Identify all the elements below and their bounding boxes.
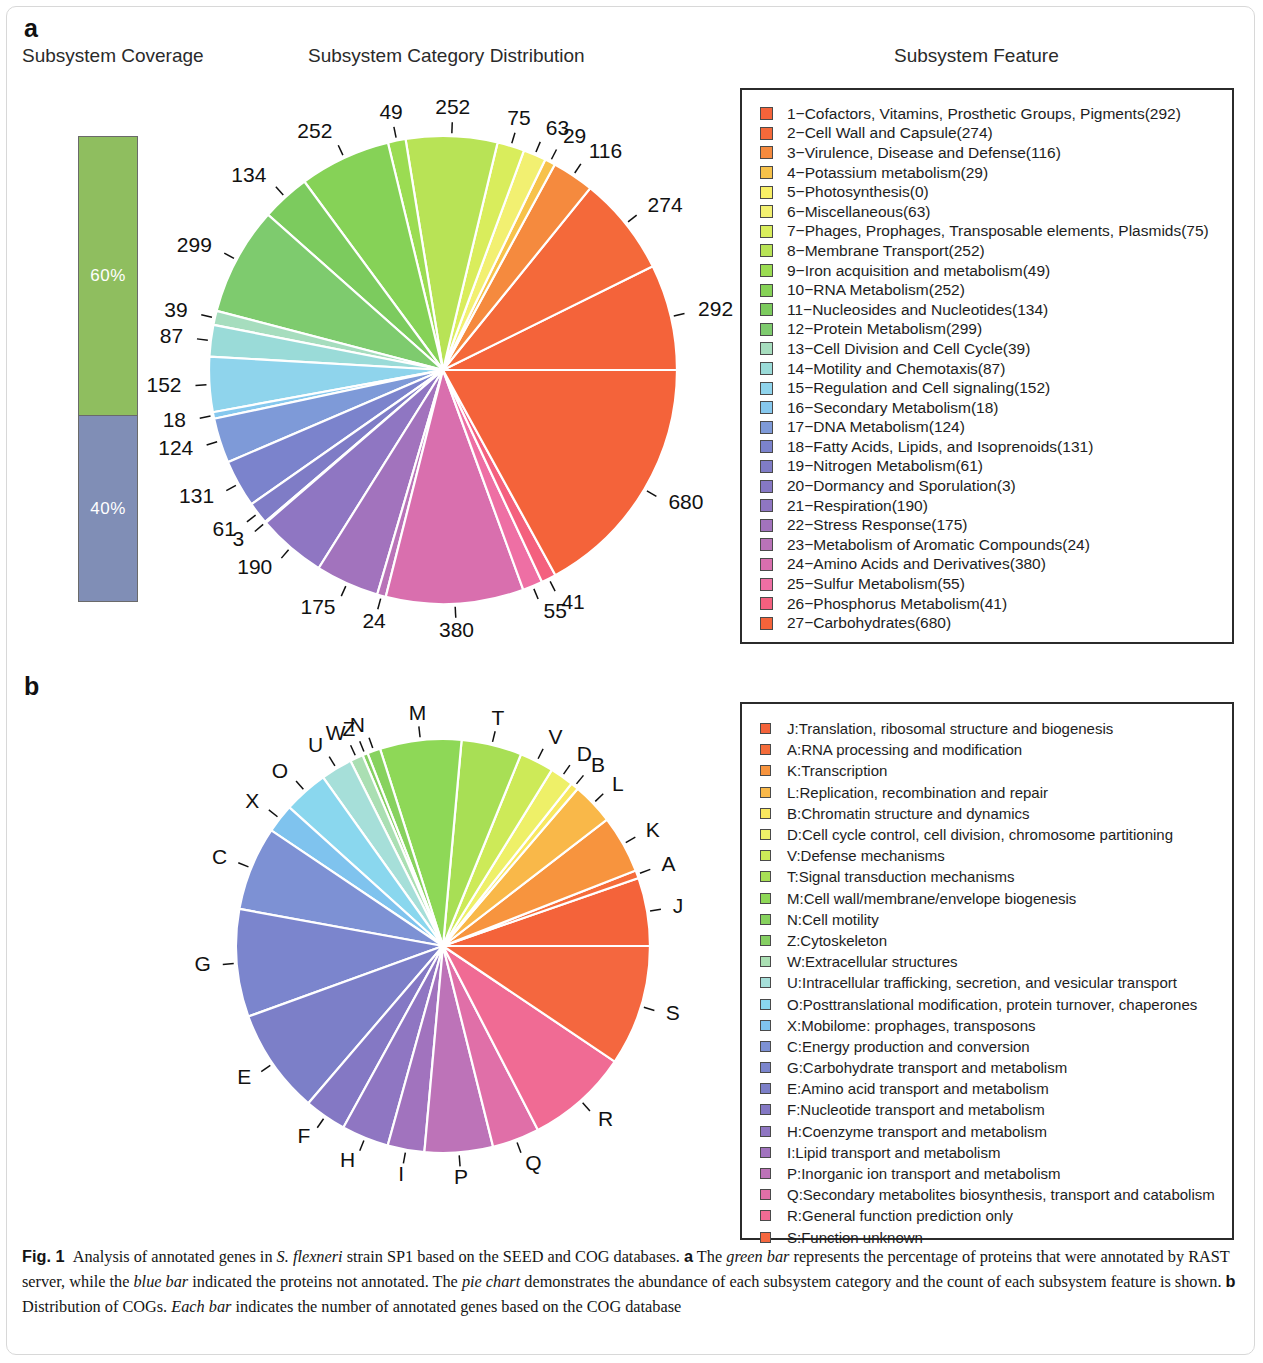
cog-legend-item[interactable]: V:Defense mechanisms [760, 845, 1232, 866]
pie-slice-label: 380 [439, 618, 474, 641]
subsystem-feature-legend-item[interactable]: 27−Carbohydrates(680) [760, 613, 1232, 633]
cog-legend-item-label: W:Extracellular structures [787, 953, 958, 970]
cog-legend-item-label: B:Chromatin structure and dynamics [787, 805, 1030, 822]
subsystem-feature-legend-item[interactable]: 7−Phages, Prophages, Transposable elemen… [760, 222, 1232, 242]
cog-legend-item[interactable]: M:Cell wall/membrane/envelope biogenesis [760, 888, 1232, 909]
pie-leader-line [226, 485, 236, 490]
caption-each-bar: Each bar [171, 1297, 231, 1316]
pie-leader-line [281, 550, 288, 558]
pie-slice-label: 39 [164, 298, 187, 321]
legend-color-swatch-icon [760, 871, 771, 882]
subsystem-feature-legend-item-label: 9−Iron acquisition and metabolism(49) [787, 262, 1050, 280]
subsystem-feature-legend-item[interactable]: 11−Nucleosides and Nucleotides(134) [760, 300, 1232, 320]
subsystem-feature-legend-item[interactable]: 16−Secondary Metabolism(18) [760, 398, 1232, 418]
cog-legend-item[interactable]: K:Transcription [760, 760, 1232, 781]
cog-legend-item[interactable]: G:Carbohydrate transport and metabolism [760, 1057, 1232, 1078]
subsystem-feature-legend-item[interactable]: 4−Potassium metabolism(29) [760, 163, 1232, 183]
pie-slice-label: Q [525, 1151, 541, 1174]
pie-leader-line [329, 757, 335, 766]
cog-legend-item-label: E:Amino acid transport and metabolism [787, 1080, 1049, 1097]
subsystem-feature-legend-item[interactable]: 21−Respiration(190) [760, 496, 1232, 516]
cog-legend-item[interactable]: R:General function prediction only [760, 1205, 1232, 1226]
legend-color-swatch-icon [760, 999, 771, 1010]
pie-slice-label: 252 [435, 95, 470, 118]
cog-distribution-pie-chart: JAKLBDVTMNZWUOXCGEFHIPQRS [60, 660, 760, 1220]
subsystem-feature-legend-item-label: 22−Stress Response(175) [787, 516, 968, 534]
subsystem-feature-legend-item-label: 4−Potassium metabolism(29) [787, 164, 988, 182]
subsystem-feature-legend-item[interactable]: 9−Iron acquisition and metabolism(49) [760, 261, 1232, 281]
cog-legend-item[interactable]: D:Cell cycle control, cell division, chr… [760, 824, 1232, 845]
legend-color-swatch-icon [760, 808, 771, 819]
pie-slice-label: 3 [233, 527, 245, 550]
legend-color-swatch-icon [760, 264, 773, 277]
subsystem-feature-legend-item[interactable]: 25−Sulfur Metabolism(55) [760, 574, 1232, 594]
subsystem-feature-legend-item-label: 17−DNA Metabolism(124) [787, 418, 965, 436]
cog-legend-item[interactable]: U:Intracellular trafficking, secretion, … [760, 972, 1232, 993]
pie-leader-line [360, 741, 364, 751]
subsystem-feature-legend-item[interactable]: 13−Cell Division and Cell Cycle(39) [760, 339, 1232, 359]
cog-legend-item[interactable]: L:Replication, recombination and repair [760, 782, 1232, 803]
pie-leader-line [551, 150, 556, 160]
subsystem-feature-legend-list: 1−Cofactors, Vitamins, Prosthetic Groups… [742, 90, 1232, 633]
subsystem-feature-legend-item[interactable]: 26−Phosphorus Metabolism(41) [760, 594, 1232, 614]
cog-legend-item[interactable]: P:Inorganic ion transport and metabolism [760, 1163, 1232, 1184]
cog-legend-item[interactable]: B:Chromatin structure and dynamics [760, 803, 1232, 824]
legend-color-swatch-icon [760, 617, 773, 630]
subsystem-feature-legend-item[interactable]: 2−Cell Wall and Capsule(274) [760, 124, 1232, 144]
subsystem-feature-legend-item[interactable]: 1−Cofactors, Vitamins, Prosthetic Groups… [760, 104, 1232, 124]
pie-slice-label: A [662, 852, 676, 875]
subsystem-feature-legend-item[interactable]: 12−Protein Metabolism(299) [760, 320, 1232, 340]
cog-legend-item[interactable]: Z:Cytoskeleton [760, 930, 1232, 951]
cog-legend-item-label: G:Carbohydrate transport and metabolism [787, 1059, 1067, 1076]
subsystem-feature-legend-item[interactable]: 20−Dormancy and Sporulation(3) [760, 476, 1232, 496]
legend-color-swatch-icon [760, 186, 773, 199]
cog-legend-item[interactable]: T:Signal transduction mechanisms [760, 866, 1232, 887]
caption-text-2: strain SP1 based on the SEED and COG dat… [343, 1247, 684, 1266]
cog-legend-item[interactable]: E:Amino acid transport and metabolism [760, 1078, 1232, 1099]
pie-leader-line [534, 589, 538, 599]
cog-legend-item[interactable]: O:Posttranslational modification, protei… [760, 993, 1232, 1014]
subsystem-feature-legend-item[interactable]: 23−Metabolism of Aromatic Compounds(24) [760, 535, 1232, 555]
subsystem-feature-legend-item-label: 12−Protein Metabolism(299) [787, 320, 982, 338]
caption-species: S. flexneri [277, 1247, 343, 1266]
cog-legend-item[interactable]: A:RNA processing and modification [760, 739, 1232, 760]
subsystem-feature-legend-item[interactable]: 24−Amino Acids and Derivatives(380) [760, 555, 1232, 575]
cog-legend-item[interactable]: H:Coenzyme transport and metabolism [760, 1121, 1232, 1142]
cog-legend-item-label: T:Signal transduction mechanisms [787, 868, 1015, 885]
legend-color-swatch-icon [760, 205, 773, 218]
legend-color-swatch-icon [760, 460, 773, 473]
pie-leader-line [538, 749, 543, 759]
cog-legend-item[interactable]: X:Mobilome: prophages, transposons [760, 1015, 1232, 1036]
subsystem-feature-legend-item[interactable]: 19−Nitrogen Metabolism(61) [760, 457, 1232, 477]
subsystem-feature-legend-item[interactable]: 5−Photosynthesis(0) [760, 182, 1232, 202]
cog-legend-item[interactable]: J:Translation, ribosomal structure and b… [760, 718, 1232, 739]
subsystem-feature-legend-item[interactable]: 18−Fatty Acids, Lipids, and Isoprenoids(… [760, 437, 1232, 457]
pie-slice-label: 63 [546, 116, 569, 139]
pie-leader-line [261, 1065, 270, 1071]
subsystem-feature-legend-item[interactable]: 8−Membrane Transport(252) [760, 241, 1232, 261]
subsystem-feature-legend-item[interactable]: 3−Virulence, Disease and Defense(116) [760, 143, 1232, 163]
subsystem-feature-legend-item[interactable]: 15−Regulation and Cell signaling(152) [760, 378, 1232, 398]
cog-legend-item[interactable]: Q:Secondary metabolites biosynthesis, tr… [760, 1184, 1232, 1205]
cog-legend-item[interactable]: F:Nucleotide transport and metabolism [760, 1099, 1232, 1120]
caption-text-7: Distribution of COGs. [22, 1297, 171, 1316]
subsystem-feature-legend-item[interactable]: 6−Miscellaneous(63) [760, 202, 1232, 222]
cog-legend-item[interactable]: I:Lipid transport and metabolism [760, 1142, 1232, 1163]
subsystem-feature-legend-item-label: 8−Membrane Transport(252) [787, 242, 985, 260]
subsystem-feature-legend-item[interactable]: 22−Stress Response(175) [760, 515, 1232, 535]
pie-leader-line [224, 253, 234, 258]
pie-slice-label: E [237, 1065, 251, 1088]
legend-color-swatch-icon [760, 1126, 771, 1137]
cog-legend-item-label: D:Cell cycle control, cell division, chr… [787, 826, 1173, 843]
subsystem-feature-legend-item[interactable]: 14−Motility and Chemotaxis(87) [760, 359, 1232, 379]
cog-legend-item[interactable]: W:Extracellular structures [760, 951, 1232, 972]
pie-leader-line [647, 491, 656, 497]
cog-legend-item[interactable]: C:Energy production and conversion [760, 1036, 1232, 1057]
subsystem-feature-legend-item[interactable]: 10−RNA Metabolism(252) [760, 280, 1232, 300]
caption-panel-a-ref: a [684, 1247, 693, 1265]
subsystem-feature-title: Subsystem Feature [894, 45, 1059, 67]
subsystem-feature-legend-item[interactable]: 17−DNA Metabolism(124) [760, 418, 1232, 438]
legend-color-swatch-icon [760, 538, 773, 551]
caption-text-1: Analysis of annotated genes in [73, 1247, 277, 1266]
cog-legend-item[interactable]: N:Cell motility [760, 909, 1232, 930]
